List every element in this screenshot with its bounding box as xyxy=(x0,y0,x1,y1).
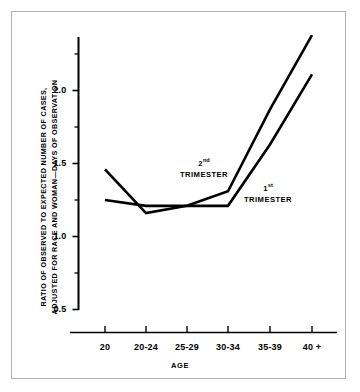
y-axis-title: RATIO OF OBSERVED TO EXPECTED NUMBER OF … xyxy=(38,62,60,332)
series-label-1st-trimester: 1st TRIMESTER xyxy=(232,180,304,205)
x-tick-marks xyxy=(105,326,312,333)
series-1-name-short: 1st xyxy=(263,184,273,193)
y-tick-label: 1.5 xyxy=(41,158,67,168)
series-0-name-short: 2nd xyxy=(198,159,210,168)
series-0-name-word: TRIMESTER xyxy=(180,170,228,179)
y-axis-title-line2: ADJUSTED FOR RACE AND WOMAN—DAYS OF OBSE… xyxy=(49,62,60,332)
y-axis-title-line1: RATIO OF OBSERVED TO EXPECTED NUMBER OF … xyxy=(39,88,48,307)
y-tick-label: 2.0 xyxy=(41,85,67,95)
series-label-2nd-trimester: 2nd TRIMESTER xyxy=(168,155,240,180)
x-axis-title: AGE xyxy=(0,361,360,370)
y-tick-label: 0.5 xyxy=(41,304,67,314)
series-1-name-word: TRIMESTER xyxy=(244,195,292,204)
y-tick-label: 1.0 xyxy=(41,231,67,241)
x-tick-label: 40 + xyxy=(287,342,337,352)
